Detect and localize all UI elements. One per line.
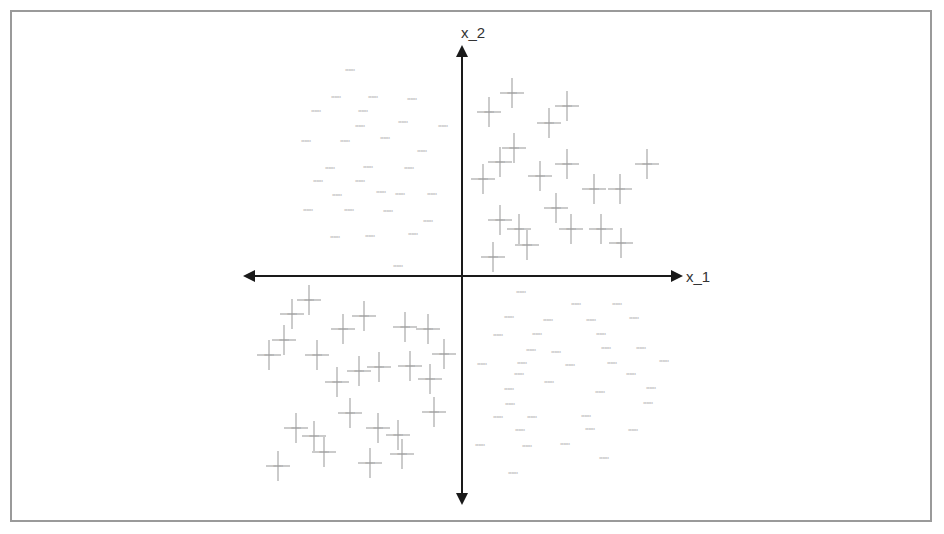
point-label: xxxxxx xyxy=(595,390,605,394)
data-point-label: xxxxxx xyxy=(325,166,335,170)
data-point-label: xxxxxx xyxy=(313,179,323,183)
point-label: xxxxxx xyxy=(344,208,354,212)
data-point-cross: xxxxxx xyxy=(488,205,512,235)
point-label: xxxxxx xyxy=(495,160,505,164)
data-point-label: xxxxxx xyxy=(515,428,525,432)
point-label: xxxxxx xyxy=(400,325,410,329)
point-label: xxxxxx xyxy=(628,428,638,432)
data-point-cross: xxxxxx xyxy=(257,340,281,370)
point-label: xxxxxx xyxy=(359,314,369,318)
data-point-label: xxxxxx xyxy=(358,109,368,113)
point-label: xxxxxx xyxy=(544,380,554,384)
data-point-label: xxxxxx xyxy=(505,402,515,406)
data-point-label: xxxxxx xyxy=(407,97,417,101)
point-label: xxxxxx xyxy=(535,174,545,178)
point-label: xxxxxx xyxy=(581,414,591,418)
point-label: xxxxxx xyxy=(509,146,519,150)
point-label: xxxxxx xyxy=(313,179,323,183)
y-axis-label: x_2 xyxy=(461,24,485,41)
point-label: xxxxxx xyxy=(585,427,595,431)
data-point-label: xxxxxx xyxy=(565,363,575,367)
point-label: xxxxxx xyxy=(507,91,517,95)
data-point-cross: xxxxxx xyxy=(500,78,524,108)
data-point-label: xxxxxx xyxy=(581,414,591,418)
point-label: xxxxxx xyxy=(345,68,355,72)
point-label: xxxxxx xyxy=(332,193,342,197)
point-label: xxxxxx xyxy=(596,227,606,231)
point-label: xxxxxx xyxy=(562,162,572,166)
point-label: xxxxxx xyxy=(365,461,375,465)
data-point-label: xxxxxx xyxy=(560,442,570,446)
data-point-cross: xxxxxx xyxy=(528,161,552,191)
data-point-label: xxxxxx xyxy=(585,427,595,431)
point-label: xxxxxx xyxy=(560,442,570,446)
point-label: xxxxxx xyxy=(404,166,414,170)
data-point-label: xxxxxx xyxy=(380,136,390,140)
data-point-cross: xxxxxx xyxy=(481,242,505,272)
data-point-label: xxxxxx xyxy=(368,95,378,99)
data-point-cross: xxxxxx xyxy=(502,133,526,163)
point-label: xxxxxx xyxy=(484,110,494,114)
point-label: xxxxxx xyxy=(325,166,335,170)
point-label: xxxxxx xyxy=(615,187,625,191)
point-label: xxxxxx xyxy=(493,333,503,337)
point-label: xxxxxx xyxy=(340,139,350,143)
data-point-label: xxxxxx xyxy=(522,444,532,448)
data-point-cross: xxxxxx xyxy=(589,214,613,244)
data-point-cross: xxxxxx xyxy=(312,437,336,467)
data-point-label: xxxxxx xyxy=(599,456,609,460)
point-label: xxxxxx xyxy=(439,352,449,356)
data-point-cross: xxxxxx xyxy=(471,164,495,194)
point-label: xxxxxx xyxy=(423,327,433,331)
point-label: xxxxxx xyxy=(408,232,418,236)
data-point-cross: xxxxxx xyxy=(390,439,414,469)
data-point-label: xxxxxx xyxy=(365,234,375,238)
point-label: xxxxxx xyxy=(407,97,417,101)
data-point-label: xxxxxx xyxy=(376,190,386,194)
y-axis-bottom-arrow-icon xyxy=(456,493,468,505)
data-point-cross: xxxxxx xyxy=(386,420,410,450)
point-label: xxxxxx xyxy=(488,255,498,259)
data-point-label: xxxxxx xyxy=(636,346,646,350)
point-label: xxxxxx xyxy=(607,361,617,365)
point-label: xxxxxx xyxy=(515,428,525,432)
point-label: xxxxxx xyxy=(596,332,606,336)
data-point-label: xxxxxx xyxy=(331,95,341,99)
data-point-cross: xxxxxx xyxy=(422,397,446,427)
data-point-label: xxxxxx xyxy=(629,316,639,320)
point-label: xxxxxx xyxy=(551,206,561,210)
data-point-label: xxxxxx xyxy=(332,193,342,197)
data-point-label: xxxxxx xyxy=(363,165,373,169)
point-label: xxxxxx xyxy=(331,95,341,99)
data-point-label: xxxxxx xyxy=(398,120,408,124)
point-label: xxxxxx xyxy=(504,387,514,391)
data-point-label: xxxxxx xyxy=(477,362,487,366)
data-point-label: xxxxxx xyxy=(551,350,561,354)
point-label: xxxxxx xyxy=(309,434,319,438)
point-label: xxxxxx xyxy=(355,124,365,128)
data-point-label: xxxxxx xyxy=(344,208,354,212)
point-label: xxxxxx xyxy=(279,338,289,342)
point-label: xxxxxx xyxy=(393,433,403,437)
point-label: xxxxxx xyxy=(517,361,527,365)
data-point-cross: xxxxxx xyxy=(284,413,308,443)
point-label: xxxxxx xyxy=(514,372,524,376)
point-label: xxxxxx xyxy=(398,120,408,124)
point-label: xxxxxx xyxy=(642,162,652,166)
data-point-label: xxxxxx xyxy=(504,387,514,391)
data-point-label: xxxxxx xyxy=(493,415,503,419)
data-point-cross: xxxxxx xyxy=(635,149,659,179)
point-label: xxxxxx xyxy=(429,410,439,414)
point-label: xxxxxx xyxy=(532,332,542,336)
point-label: xxxxxx xyxy=(304,298,314,302)
data-point-cross: xxxxxx xyxy=(297,285,321,315)
data-point-label: xxxxxx xyxy=(355,179,365,183)
point-label: xxxxxx xyxy=(478,177,488,181)
data-point-cross: xxxxxx xyxy=(280,299,304,329)
point-label: xxxxxx xyxy=(395,192,405,196)
points-layer: xxxxxxxxxxxxxxxxxxxxxxxxxxxxxxxxxxxxxxxx… xyxy=(257,68,669,481)
point-label: xxxxxx xyxy=(601,346,611,350)
point-label: xxxxxx xyxy=(287,312,297,316)
data-point-label: xxxxxx xyxy=(571,302,581,306)
point-label: xxxxxx xyxy=(522,444,532,448)
